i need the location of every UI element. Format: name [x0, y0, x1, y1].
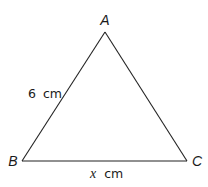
side-bc-variable: x	[89, 166, 97, 181]
side-label-ab: 6 cm	[28, 86, 62, 101]
side-ac	[105, 32, 187, 161]
side-bc-unit: cm	[104, 166, 123, 181]
vertex-label-c: C	[192, 153, 203, 169]
vertex-label-a: A	[99, 12, 109, 28]
triangle-diagram: A B C 6 cm x cm	[0, 0, 208, 187]
vertex-label-b: B	[8, 153, 17, 169]
side-ab-value: 6	[28, 86, 36, 101]
side-ab-unit: cm	[43, 86, 62, 101]
side-label-bc: x cm	[89, 166, 123, 181]
